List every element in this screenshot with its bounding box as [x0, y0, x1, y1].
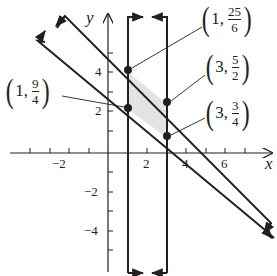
vertical-strip [128, 17, 167, 273]
x-axis-label: x [265, 154, 273, 174]
shaded-region [128, 72, 167, 138]
y-tick-label: 2 [95, 103, 102, 119]
y-ticks [108, 53, 113, 250]
diagram-canvas [0, 0, 277, 276]
x-tick-label: 2 [143, 156, 150, 172]
point-3-5-2 [163, 98, 171, 106]
point-label-1-9-4: ( 1, 94 ) [4, 74, 51, 108]
y-tick-label: 4 [95, 64, 102, 80]
x-tick-label: 6 [221, 156, 228, 172]
y-axis-label: y [86, 8, 94, 28]
x-tick-label: 4 [182, 156, 189, 172]
y-tick-label: −4 [84, 223, 98, 239]
x-tick-label: −2 [52, 156, 66, 172]
x-ticks [30, 148, 245, 153]
point-label-3-3-4: ( 3, 34 ) [204, 96, 251, 130]
point-1-25-6 [124, 66, 132, 74]
y-tick-label: −2 [84, 184, 98, 200]
point-1-9-4 [124, 104, 132, 112]
point-label-3-5-2: ( 3, 52 ) [204, 50, 251, 84]
point-label-1-25-6: ( 1, 256 ) [200, 2, 253, 36]
point-3-3-4 [163, 132, 171, 140]
